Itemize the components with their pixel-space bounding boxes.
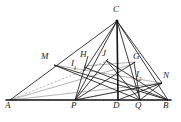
label-I1-subscript: 1: [74, 65, 77, 71]
label-J: J: [102, 49, 106, 58]
vertex-dot-C: [116, 20, 119, 23]
label-G: G: [133, 52, 140, 61]
label-P: P: [71, 101, 77, 110]
label-B: B: [163, 101, 169, 110]
label-I2: I2: [136, 70, 142, 81]
line-C-B: [117, 21, 168, 100]
label-C: C: [113, 5, 119, 14]
segment-C-D-altitude: [117, 21, 118, 100]
label-H: H: [80, 50, 87, 59]
emphasis-lines-group: [6, 21, 171, 100]
label-I1: I1: [71, 59, 77, 70]
main-lines-group: [10, 21, 168, 100]
label-D: D: [113, 101, 120, 110]
label-N: N: [163, 71, 169, 80]
label-I2-subscript: 2: [139, 76, 142, 82]
label-M: M: [41, 52, 49, 61]
geometry-diagram: [0, 0, 181, 122]
line-M-Q: [54, 65, 140, 100]
label-Q: Q: [135, 101, 142, 110]
vertex-dots-group: [116, 20, 119, 23]
label-A: A: [5, 101, 11, 110]
line-A-C: [10, 21, 117, 100]
